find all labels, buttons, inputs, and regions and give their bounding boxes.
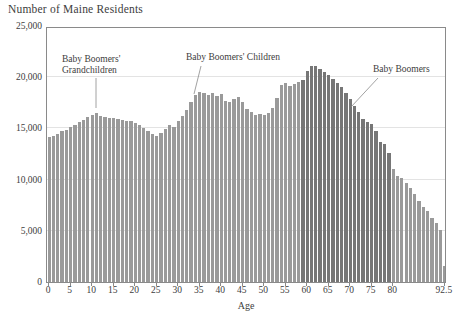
- bar: [202, 93, 205, 282]
- bar: [56, 134, 59, 282]
- x-tick-label: 10: [86, 285, 96, 295]
- bar: [353, 106, 356, 282]
- annotation-grandchildren-line1: Baby Boomers': [62, 54, 120, 65]
- bar: [379, 142, 382, 282]
- bar: [422, 207, 425, 282]
- bar: [116, 119, 119, 282]
- bar: [103, 117, 106, 282]
- x-tick-label: 65: [323, 285, 333, 295]
- bar: [258, 114, 261, 282]
- bar: [73, 125, 76, 282]
- annotation-boomers: Baby Boomers: [373, 64, 430, 75]
- bar: [396, 176, 399, 282]
- y-tick-label: 0: [2, 277, 42, 287]
- bar: [392, 169, 395, 282]
- bar: [99, 116, 102, 282]
- bar: [112, 118, 115, 282]
- bar: [228, 102, 231, 282]
- bar: [267, 113, 270, 282]
- y-axis: 05,00010,00015,00020,00025,000: [0, 27, 42, 283]
- bar: [306, 71, 309, 282]
- bar: [336, 83, 339, 282]
- bar: [164, 129, 167, 282]
- bar: [263, 115, 266, 282]
- bar: [151, 134, 154, 282]
- bar: [323, 72, 326, 282]
- bar: [78, 122, 81, 282]
- x-tick-label: 30: [172, 285, 182, 295]
- bar: [194, 95, 197, 282]
- bar: [301, 80, 304, 282]
- bar: [48, 137, 51, 282]
- annotation-boomers-line1: Baby Boomers: [373, 64, 430, 75]
- bar: [413, 194, 416, 282]
- y-tick-label: 10,000: [2, 175, 42, 185]
- x-tick-label: 92.5: [436, 285, 453, 295]
- x-tick-label: 35: [194, 285, 204, 295]
- annotation-grandchildren: Baby Boomers' Grandchildren: [62, 54, 120, 76]
- x-tick-label: 75: [366, 285, 376, 295]
- bar: [344, 93, 347, 282]
- bar: [60, 131, 63, 282]
- bar: [177, 121, 180, 282]
- bar: [284, 83, 287, 282]
- bar: [69, 127, 72, 282]
- bar: [443, 266, 446, 282]
- bar: [232, 99, 235, 282]
- bar: [288, 86, 291, 282]
- x-tick-label: 25: [151, 285, 161, 295]
- bar: [430, 218, 433, 283]
- bar: [275, 98, 278, 282]
- bar: [134, 123, 137, 282]
- bar: [241, 102, 244, 282]
- bar: [370, 124, 373, 282]
- x-tick-label: 60: [301, 285, 311, 295]
- bar: [168, 125, 171, 282]
- bar: [52, 136, 55, 282]
- bar: [361, 119, 364, 282]
- chart-title: Number of Maine Residents: [8, 3, 143, 15]
- x-axis: 0510152025303540455055606570758092.5: [46, 285, 446, 299]
- bar: [340, 87, 343, 282]
- bar: [366, 122, 369, 282]
- bar: [125, 121, 128, 282]
- x-axis-title: Age: [46, 300, 446, 311]
- bar: [387, 153, 390, 282]
- bar: [383, 144, 386, 282]
- bar: [293, 84, 296, 282]
- bar: [198, 92, 201, 282]
- bar: [426, 211, 429, 282]
- bar: [405, 183, 408, 282]
- bar: [318, 69, 321, 282]
- bar: [357, 112, 360, 282]
- bar: [142, 128, 145, 282]
- y-tick-label: 5,000: [2, 226, 42, 236]
- bar: [220, 94, 223, 282]
- bar: [250, 112, 253, 282]
- bar: [331, 79, 334, 282]
- bar: [146, 131, 149, 282]
- bar: [439, 230, 442, 282]
- annotation-children: Baby Boomers' Children: [186, 52, 280, 63]
- bar: [310, 66, 313, 282]
- y-tick-label: 15,000: [2, 123, 42, 133]
- bar: [129, 121, 132, 282]
- x-tick-label: 15: [108, 285, 118, 295]
- x-tick-label: 45: [237, 285, 247, 295]
- bar: [224, 101, 227, 282]
- bar: [108, 118, 111, 282]
- x-tick-label: 55: [280, 285, 290, 295]
- y-tick-label: 20,000: [2, 72, 42, 82]
- bar: [417, 201, 420, 282]
- bar: [189, 102, 192, 282]
- x-tick-label: 0: [46, 285, 51, 295]
- bar: [172, 127, 175, 282]
- bar: [254, 115, 257, 282]
- bar: [374, 131, 377, 282]
- bar: [349, 99, 352, 282]
- y-tick-label: 25,000: [2, 21, 42, 31]
- bar: [91, 115, 94, 282]
- bar: [207, 95, 210, 282]
- bar: [211, 93, 214, 282]
- bar: [155, 136, 158, 282]
